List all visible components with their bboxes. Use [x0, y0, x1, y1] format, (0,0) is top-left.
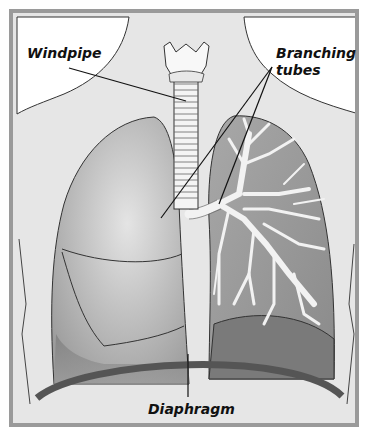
left-shoulder-area [17, 17, 129, 114]
branching-tubes-label-line1: Branching [276, 45, 356, 61]
branching-tubes-label-line2: tubes [276, 62, 321, 78]
windpipe-label: Windpipe [27, 45, 102, 61]
left-lung [52, 117, 189, 384]
windpipe-pointer [69, 68, 186, 101]
diaphragm-label: Diaphragm [148, 401, 235, 417]
